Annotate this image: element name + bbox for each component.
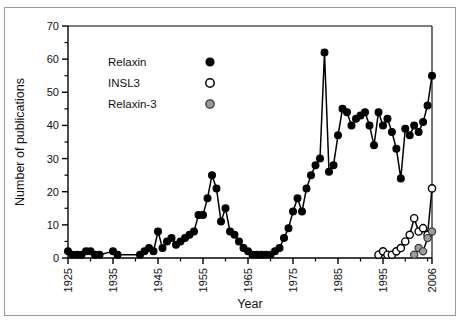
data-point-relaxin: [330, 162, 337, 169]
legend-marker-relaxin-3: [206, 100, 214, 108]
x-tick-label: 1925: [62, 268, 74, 292]
data-point-relaxin: [209, 172, 216, 179]
data-point-relaxin: [420, 119, 427, 126]
data-point-relaxin: [380, 122, 387, 129]
data-point-relaxin: [231, 231, 238, 238]
data-point-relaxin: [371, 142, 378, 149]
x-axis-title: Year: [237, 297, 262, 311]
data-point-relaxin: [276, 245, 283, 252]
x-tick-label: 1965: [242, 268, 254, 292]
data-point-relaxin: [114, 251, 121, 258]
data-point-relaxin: [402, 125, 409, 132]
data-point-relaxin: [200, 212, 207, 219]
data-point-relaxin: [236, 238, 243, 245]
x-tick-label: 1975: [287, 268, 299, 292]
legend-marker-relaxin: [206, 58, 214, 66]
y-tick-label: 70: [47, 20, 59, 32]
data-point-relaxin: [411, 122, 418, 129]
data-point-insl3: [397, 244, 404, 251]
data-point-relaxin-3: [428, 228, 435, 235]
data-point-relaxin: [155, 228, 162, 235]
chart-canvas: 0102030405060701925193519451955196519751…: [0, 0, 463, 323]
y-tick-label: 40: [47, 119, 59, 131]
legend-label-insl3: INSL3: [108, 77, 140, 89]
data-point-relaxin: [303, 185, 310, 192]
data-point-insl3: [411, 215, 418, 222]
data-point-relaxin: [384, 115, 391, 122]
data-point-relaxin: [281, 235, 288, 242]
data-point-relaxin: [366, 122, 373, 129]
data-point-relaxin: [389, 129, 396, 136]
data-point-relaxin: [294, 195, 301, 202]
data-point-relaxin: [393, 145, 400, 152]
data-point-relaxin: [312, 162, 319, 169]
y-axis-title: Number of publications: [13, 78, 27, 206]
data-point-relaxin: [222, 205, 229, 212]
x-tick-label: 1945: [152, 268, 164, 292]
legend-label-relaxin-3: Relaxin-3: [108, 98, 157, 110]
data-point-relaxin: [375, 109, 382, 116]
y-tick-label: 60: [47, 53, 59, 65]
data-point-relaxin: [150, 248, 157, 255]
data-point-relaxin: [317, 155, 324, 162]
y-tick-label: 50: [47, 86, 59, 98]
y-tick-label: 30: [47, 153, 59, 165]
data-point-relaxin: [406, 132, 413, 139]
x-tick-label: 1985: [332, 268, 344, 292]
data-point-relaxin: [204, 195, 211, 202]
plot-area: 0102030405060701925193519451955196519751…: [13, 20, 438, 311]
y-tick-label: 20: [47, 186, 59, 198]
data-point-relaxin: [218, 218, 225, 225]
x-tick-label: 1935: [107, 268, 119, 292]
x-tick-label: 2006: [426, 268, 438, 292]
data-point-insl3: [406, 231, 413, 238]
data-point-relaxin: [335, 132, 342, 139]
data-point-insl3: [428, 185, 435, 192]
data-point-relaxin-3: [419, 248, 426, 255]
data-point-relaxin: [308, 172, 315, 179]
data-point-relaxin: [299, 208, 306, 215]
data-point-relaxin: [397, 175, 404, 182]
data-point-relaxin: [429, 72, 436, 79]
x-tick-label: 1995: [377, 268, 389, 292]
data-point-relaxin: [344, 109, 351, 116]
data-point-relaxin: [424, 102, 431, 109]
x-tick-label: 1955: [197, 268, 209, 292]
data-point-insl3: [402, 238, 409, 245]
data-point-relaxin: [326, 168, 333, 175]
data-point-relaxin: [213, 185, 220, 192]
data-point-relaxin-3: [411, 251, 418, 258]
figure-container: 0102030405060701925193519451955196519751…: [0, 0, 463, 323]
legend-label-relaxin: Relaxin: [108, 56, 146, 68]
data-point-relaxin: [321, 49, 328, 56]
y-tick-label: 0: [53, 252, 59, 264]
data-point-relaxin: [285, 225, 292, 232]
data-point-relaxin: [96, 251, 103, 258]
data-point-relaxin: [348, 122, 355, 129]
data-point-relaxin-3: [424, 235, 431, 242]
data-point-relaxin: [159, 245, 166, 252]
data-point-relaxin: [168, 235, 175, 242]
data-point-insl3: [419, 225, 426, 232]
data-point-relaxin: [191, 228, 198, 235]
legend-marker-insl3: [206, 79, 214, 87]
y-tick-label: 10: [47, 219, 59, 231]
data-point-relaxin: [290, 208, 297, 215]
data-point-relaxin: [415, 129, 422, 136]
data-point-relaxin: [362, 109, 369, 116]
